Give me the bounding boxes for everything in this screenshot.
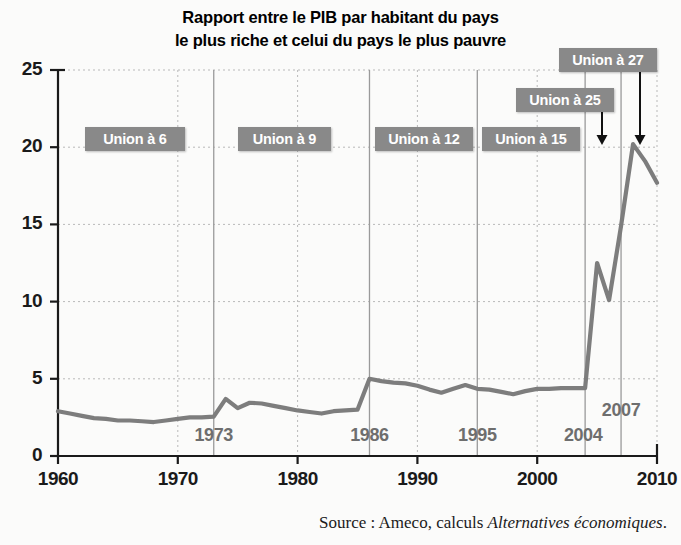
event-year-label-1986: 1986 bbox=[334, 425, 404, 446]
x-axis-tick-2010: 2010 bbox=[622, 468, 681, 490]
source-note: Source : Ameco, calculs Alternatives éco… bbox=[319, 513, 667, 533]
source-emphasis: Alternatives économiques bbox=[488, 513, 663, 532]
union-badge-union-à-27: Union à 27 bbox=[559, 48, 657, 72]
union-badge-union-à-9: Union à 9 bbox=[238, 127, 331, 151]
event-year-label-2004: 2004 bbox=[548, 425, 618, 446]
event-year-label-2007: 2007 bbox=[586, 400, 656, 421]
y-axis-tick-0: 0 bbox=[2, 444, 42, 466]
x-axis-tick-1980: 1980 bbox=[263, 468, 333, 490]
plot-area: 0510152025 196019701980199020002010 1973… bbox=[0, 0, 681, 545]
y-axis-tick-10: 10 bbox=[2, 290, 42, 312]
x-axis-tick-1970: 1970 bbox=[143, 468, 213, 490]
y-axis-tick-5: 5 bbox=[2, 367, 42, 389]
union-badge-union-à-12: Union à 12 bbox=[375, 127, 473, 151]
union-badge-union-à-6: Union à 6 bbox=[85, 127, 185, 151]
union-badge-union-à-15: Union à 15 bbox=[482, 127, 580, 151]
y-axis-tick-20: 20 bbox=[2, 135, 42, 157]
chart-figure: Rapport entre le PIB par habitant du pay… bbox=[0, 0, 681, 545]
source-prefix: Source : Ameco, calculs bbox=[319, 513, 488, 532]
source-suffix: . bbox=[663, 513, 667, 532]
y-axis-tick-25: 25 bbox=[2, 58, 42, 80]
union-badge-union-à-25: Union à 25 bbox=[516, 88, 614, 112]
x-axis-tick-1960: 1960 bbox=[23, 468, 93, 490]
x-axis-tick-2000: 2000 bbox=[502, 468, 572, 490]
data-line bbox=[58, 144, 657, 422]
x-axis-tick-1990: 1990 bbox=[382, 468, 452, 490]
event-year-label-1973: 1973 bbox=[179, 425, 249, 446]
chart-canvas bbox=[0, 0, 681, 545]
event-year-label-1995: 1995 bbox=[442, 425, 512, 446]
y-axis-tick-15: 15 bbox=[2, 212, 42, 234]
